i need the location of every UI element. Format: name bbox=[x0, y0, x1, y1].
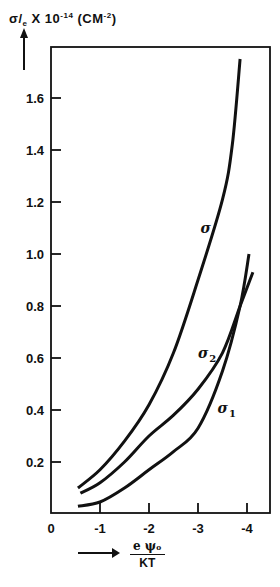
y-tick-label: 1.0 bbox=[26, 247, 44, 262]
x-label-denominator: KT bbox=[130, 555, 165, 570]
x-axis-arrow-icon bbox=[78, 552, 118, 554]
x-ticks: 0-1-2-3-4 bbox=[47, 503, 253, 536]
y-ticks: 0.20.40.60.81.01.21.41.6 bbox=[26, 91, 61, 470]
curves bbox=[78, 59, 253, 506]
curve-σ bbox=[78, 59, 240, 488]
y-axis-arrow-icon bbox=[20, 28, 28, 70]
x-label-numerator: e ψₒ bbox=[130, 539, 165, 555]
label-σ1: σ1 bbox=[218, 400, 236, 419]
y-tick-label: 1.6 bbox=[26, 91, 44, 106]
x-tick-label: 0 bbox=[47, 521, 54, 536]
plot-frame bbox=[51, 47, 270, 513]
y-tick-label: 1.2 bbox=[26, 195, 44, 210]
x-tick-label: -1 bbox=[94, 521, 106, 536]
x-tick-label: -2 bbox=[143, 521, 155, 536]
curve-σ2 bbox=[80, 272, 253, 493]
x-axis-label: e ψₒ KT bbox=[78, 541, 188, 581]
y-tick-label: 0.6 bbox=[26, 351, 44, 366]
x-label-fraction: e ψₒ KT bbox=[130, 539, 165, 570]
x-tick-label: -4 bbox=[241, 521, 253, 536]
y-tick-label: 0.8 bbox=[26, 299, 44, 314]
label-σ: σ bbox=[200, 220, 211, 236]
y-tick-label: 0.2 bbox=[26, 455, 44, 470]
label-σ2: σ2 bbox=[198, 345, 216, 364]
y-tick-label: 0.4 bbox=[26, 403, 45, 418]
chart-canvas: 0.20.40.60.81.01.21.41.6 0-1-2-3-4 σσ2σ1 bbox=[0, 0, 280, 587]
curve-σ1 bbox=[78, 254, 249, 506]
x-tick-label: -3 bbox=[192, 521, 204, 536]
y-tick-label: 1.4 bbox=[26, 143, 45, 158]
